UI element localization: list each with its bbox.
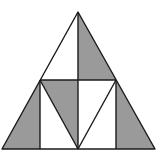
triangle-figure [0, 0, 159, 156]
diag-right [78, 80, 116, 149]
